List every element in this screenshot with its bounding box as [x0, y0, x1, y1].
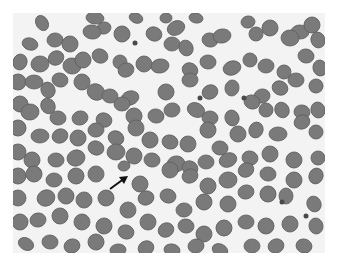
red-blood-cell	[177, 218, 195, 234]
red-blood-cell	[308, 217, 324, 235]
red-blood-cell	[269, 127, 287, 141]
red-blood-cell	[13, 190, 26, 207]
red-blood-cell	[261, 145, 279, 163]
red-blood-cell	[24, 164, 45, 185]
red-blood-cell	[224, 79, 241, 97]
red-blood-cell	[29, 212, 47, 229]
red-blood-cell	[136, 238, 157, 253]
platelet	[242, 96, 247, 101]
red-blood-cell	[280, 214, 299, 233]
red-blood-cells	[13, 13, 325, 253]
platelet	[304, 214, 309, 219]
red-blood-cell	[283, 149, 305, 171]
red-blood-cell	[120, 202, 137, 219]
red-blood-cell	[31, 129, 49, 143]
platelet	[133, 41, 138, 46]
red-blood-cell	[164, 37, 180, 51]
red-blood-cell	[86, 232, 106, 252]
red-blood-cell	[158, 187, 177, 205]
red-blood-cell	[139, 213, 156, 230]
red-blood-cell	[221, 59, 242, 78]
red-blood-cell	[297, 48, 315, 65]
red-blood-cell	[114, 97, 130, 112]
red-blood-cell	[304, 194, 323, 214]
red-blood-cell	[284, 170, 304, 190]
red-blood-cell	[95, 187, 116, 208]
red-blood-cell	[307, 166, 325, 186]
red-blood-cell	[21, 36, 40, 52]
red-blood-cell	[140, 130, 160, 150]
platelet	[198, 96, 203, 101]
red-blood-cell	[106, 143, 125, 160]
red-blood-cell	[228, 124, 247, 143]
red-blood-cell	[73, 213, 90, 230]
red-blood-cell	[25, 75, 43, 89]
red-blood-cell	[163, 102, 181, 119]
red-blood-cell	[236, 183, 255, 201]
red-blood-cell	[134, 54, 153, 73]
red-blood-cell	[110, 243, 127, 253]
red-blood-cell	[112, 24, 132, 44]
red-blood-cell	[75, 191, 94, 210]
red-blood-cell	[150, 58, 170, 75]
red-blood-cell	[57, 187, 76, 206]
red-blood-cell	[259, 166, 277, 182]
red-blood-cell	[258, 102, 273, 117]
red-blood-cell	[266, 237, 286, 253]
red-blood-cell	[156, 220, 177, 240]
red-blood-cell	[13, 212, 30, 231]
red-blood-cell	[307, 77, 325, 95]
red-blood-cell	[241, 51, 259, 69]
red-blood-cell	[288, 73, 304, 88]
red-blood-cell	[116, 223, 136, 241]
red-blood-cell	[65, 165, 86, 186]
red-blood-cell	[223, 108, 242, 128]
red-blood-cell	[143, 152, 161, 169]
red-blood-cell	[272, 100, 292, 121]
red-blood-cell	[308, 124, 325, 141]
red-blood-cell	[68, 128, 87, 147]
red-blood-cell	[238, 215, 254, 229]
red-blood-cell	[246, 120, 265, 140]
red-blood-cell	[34, 187, 57, 209]
red-blood-cell	[200, 82, 221, 102]
red-blood-cell	[160, 133, 180, 151]
red-blood-cell	[175, 202, 192, 218]
red-blood-cell	[94, 216, 114, 236]
red-blood-cell	[270, 78, 290, 97]
red-blood-cell	[33, 13, 51, 33]
micrograph	[13, 13, 325, 253]
red-blood-cell	[16, 235, 36, 253]
red-blood-cell	[13, 118, 28, 139]
red-blood-cell	[160, 13, 172, 23]
red-blood-cell	[218, 171, 238, 189]
red-blood-cell	[162, 162, 179, 179]
red-blood-cell	[70, 109, 89, 127]
red-blood-cell	[310, 150, 325, 165]
red-blood-cell	[41, 234, 58, 249]
red-blood-cell	[210, 241, 229, 253]
red-blood-cell	[50, 126, 70, 145]
red-blood-cell	[294, 237, 313, 253]
red-blood-cell	[182, 73, 199, 88]
red-blood-cell	[87, 165, 106, 184]
red-blood-cell	[144, 25, 164, 44]
red-blood-cell	[46, 32, 63, 48]
red-blood-cell	[62, 237, 82, 253]
red-blood-cell	[13, 166, 28, 186]
red-blood-cell	[90, 46, 110, 65]
red-blood-cell	[309, 100, 325, 119]
red-blood-cell	[179, 135, 196, 152]
platelet	[280, 200, 285, 205]
red-blood-cell	[65, 148, 87, 169]
red-blood-cell	[256, 216, 277, 237]
red-blood-cell	[258, 58, 275, 73]
red-blood-cell	[156, 82, 177, 103]
red-blood-cell	[193, 191, 215, 213]
red-blood-cell	[147, 107, 166, 124]
red-blood-cell	[128, 13, 145, 25]
red-blood-cell	[47, 152, 64, 167]
red-blood-cell	[49, 205, 71, 227]
arrow-head-icon	[119, 176, 128, 184]
red-blood-cell	[198, 155, 214, 169]
